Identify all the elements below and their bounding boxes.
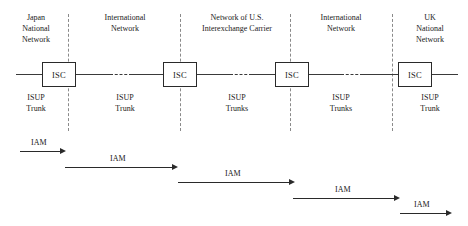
trunk-link-1-b (132, 74, 163, 75)
trunk-link-3-a (308, 74, 341, 75)
iam-arrow-2-shaft (65, 167, 172, 168)
arrow-head-icon (289, 179, 295, 185)
isc-switch-2[interactable]: ISC (163, 62, 197, 87)
trunk-link-2-dashed (230, 74, 252, 75)
iam-arrow-4-label: IAM (335, 185, 351, 194)
trunk-link-3-dashed (341, 74, 363, 75)
segment-title-international-network-uk-side: International Network (296, 12, 386, 34)
iam-arrow-1-shaft (20, 151, 60, 152)
isc-switch-2-label: ISC (173, 70, 187, 80)
trunk-link-1-dashed (110, 74, 132, 75)
trunk-link-2-b (252, 74, 275, 75)
isc-switch-1[interactable]: ISC (42, 62, 76, 87)
isc-switch-4[interactable]: ISC (398, 62, 432, 87)
trunk-label-international-japan-side: ISUP Trunk (80, 92, 170, 114)
trunk-label-us-interexchange: ISUP Trunks (192, 92, 282, 114)
domain-divider-4 (392, 14, 393, 131)
arrow-head-icon (394, 195, 400, 201)
segment-title-international-network-japan-side: International Network (75, 12, 175, 34)
iam-arrow-3-label: IAM (225, 169, 241, 178)
trunk-link-stub-right (432, 74, 458, 75)
network-signalling-diagram: Japan National Network International Net… (0, 0, 468, 226)
iam-arrow-4-shaft (293, 198, 394, 199)
isc-switch-3[interactable]: ISC (275, 62, 309, 87)
trunk-label-uk-national: ISUP Trunk (402, 92, 458, 114)
trunk-label-japan-national: ISUP Trunk (6, 92, 66, 114)
iam-arrow-5-shaft (400, 213, 446, 214)
iam-arrow-3-shaft (178, 182, 289, 183)
trunk-link-3-b (363, 74, 398, 75)
isc-switch-4-label: ISC (408, 70, 422, 80)
iam-arrow-5-label: IAM (414, 200, 430, 209)
trunk-link-2-a (197, 74, 230, 75)
arrow-head-icon (172, 164, 178, 170)
segment-title-uk-national-network: UK National Network (400, 12, 460, 45)
iam-arrow-2-label: IAM (110, 154, 126, 163)
trunk-link-1-a (76, 74, 110, 75)
trunk-label-international-uk-side: ISUP Trunks (300, 92, 382, 114)
arrow-head-icon (60, 148, 66, 154)
segment-title-us-interexchange-carrier-network: Network of U.S. Interexchange Carrier (188, 12, 286, 34)
trunk-link-stub-left (16, 74, 42, 75)
isc-switch-3-label: ISC (285, 70, 299, 80)
segment-title-japan-national-network: Japan National Network (6, 12, 66, 45)
isc-switch-1-label: ISC (52, 70, 66, 80)
iam-arrow-1-label: IAM (31, 138, 47, 147)
arrow-head-icon (446, 210, 452, 216)
